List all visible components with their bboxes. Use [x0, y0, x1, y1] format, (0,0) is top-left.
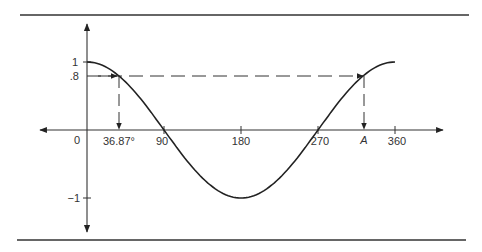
- cosine-chart: 1 .8 −1 0 36.87° 90 180 270 A 360: [0, 0, 482, 252]
- y-label-neg1: −1: [67, 192, 80, 204]
- x-label-90: 90: [156, 135, 168, 147]
- x-label-36.87: 36.87°: [103, 135, 135, 147]
- y-label-0.8: .8: [70, 70, 79, 82]
- y-label-1: 1: [72, 56, 78, 68]
- x-label-180: 180: [232, 135, 250, 147]
- x-label-270: 270: [311, 135, 329, 147]
- x-label-A: A: [359, 134, 367, 146]
- x-label-0: 0: [74, 134, 80, 146]
- x-label-360: 360: [388, 135, 406, 147]
